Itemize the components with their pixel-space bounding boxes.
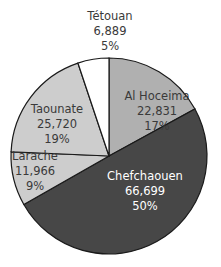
slice-label: Tétouan6,8895% — [86, 9, 132, 53]
pie-chart: Al Hoceima22,83117%Chefchaouen66,69950%L… — [0, 0, 221, 267]
